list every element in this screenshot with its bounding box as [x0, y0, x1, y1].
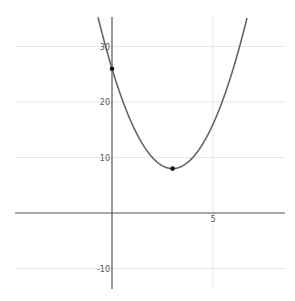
y-tick-label: -10 [97, 265, 110, 274]
grid-lines [15, 17, 285, 289]
y-tick-label: 20 [100, 98, 110, 107]
x-tick-label: 5 [210, 215, 215, 224]
y-intercept-point [110, 66, 115, 71]
axes [15, 17, 285, 289]
function-graph: 302010-105 [0, 0, 295, 301]
vertex-point [170, 166, 175, 171]
key-points [110, 66, 175, 171]
parabola-curve [98, 17, 247, 168]
y-tick-label: 10 [100, 154, 110, 163]
